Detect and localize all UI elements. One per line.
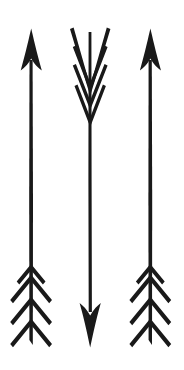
middle-arrow [70, 27, 110, 347]
left-arrow [10, 29, 52, 348]
right-arrow [129, 29, 171, 348]
middle-arrow-shaft [88, 32, 92, 312]
artboard: Three hand-drawn arrows [0, 0, 184, 370]
arrows-illustration [0, 0, 184, 370]
